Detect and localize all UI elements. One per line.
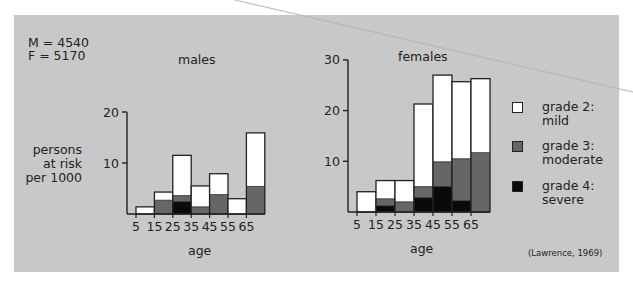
legend-label-line: moderate bbox=[542, 153, 603, 167]
legend-label-line: severe bbox=[542, 193, 595, 207]
y-tick-label: 10 bbox=[324, 154, 340, 169]
females-chart: 1020305152535455565 bbox=[0, 0, 633, 282]
legend-label-line: grade 3: bbox=[542, 139, 603, 153]
x-tick-label: 15 bbox=[368, 217, 384, 232]
x-tick-label: 45 bbox=[425, 217, 441, 232]
legend-label-line: grade 4: bbox=[542, 179, 595, 193]
bar-5-15 bbox=[357, 192, 376, 212]
bar-55-65 bbox=[452, 82, 471, 212]
bar-45-55 bbox=[433, 75, 452, 212]
legend-label-line: mild bbox=[542, 114, 595, 128]
legend-label-line: grade 2: bbox=[542, 100, 595, 114]
y-tick-label: 30 bbox=[324, 52, 340, 67]
legend-label: grade 4: severe bbox=[542, 179, 595, 207]
legend-label: grade 2: mild bbox=[542, 100, 595, 128]
bar-65+ bbox=[471, 79, 490, 212]
x-tick-label: 25 bbox=[387, 217, 403, 232]
bar-35-45 bbox=[414, 104, 433, 212]
x-tick-label: 65 bbox=[463, 217, 479, 232]
y-tick-label: 20 bbox=[324, 103, 340, 118]
legend-label: grade 3: moderate bbox=[542, 139, 603, 167]
x-tick-label: 55 bbox=[444, 217, 460, 232]
bar-15-25 bbox=[376, 181, 395, 212]
x-tick-label: 5 bbox=[353, 217, 361, 232]
mild-swatch-icon bbox=[512, 102, 523, 113]
bar-25-35 bbox=[395, 181, 414, 212]
moderate-swatch-icon bbox=[512, 141, 523, 152]
severe-swatch-icon bbox=[512, 181, 523, 192]
x-tick-label: 35 bbox=[406, 217, 422, 232]
